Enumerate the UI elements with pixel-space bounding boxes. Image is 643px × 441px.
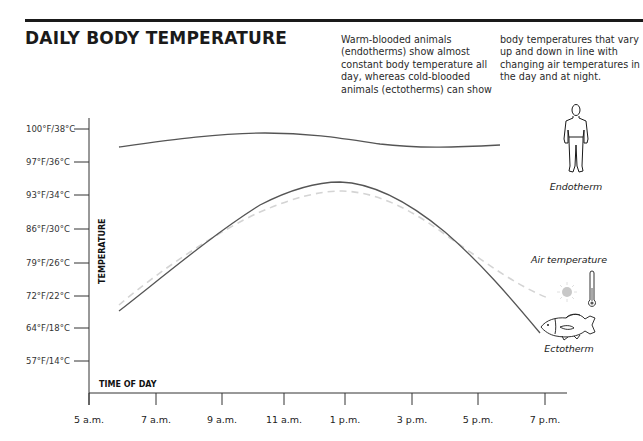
y-tick-label: 79°F/26°C	[26, 258, 70, 268]
y-tick-label: 64°F/18°C	[26, 323, 70, 333]
x-tick-label: 1 p.m.	[330, 414, 360, 425]
x-tick-labels: 5 a.m. 7 a.m. 9 a.m. 11 a.m. 1 p.m. 3 p.…	[74, 414, 560, 425]
x-ticks	[89, 393, 545, 405]
y-axis-title: TEMPERATURE	[98, 218, 107, 284]
x-tick-label: 5 p.m.	[463, 414, 493, 425]
y-tick-label: 97°F/36°C	[26, 157, 70, 167]
endotherm-label: Endotherm	[550, 181, 603, 192]
sun-icon	[557, 282, 577, 302]
y-ticks	[74, 129, 89, 361]
endotherm-line	[119, 133, 500, 147]
thermometer-icon	[589, 271, 596, 306]
x-tick-label: 9 a.m.	[207, 414, 237, 425]
air-temperature-label: Air temperature	[530, 254, 607, 265]
y-tick-label: 57°F/14°C	[26, 356, 70, 366]
x-axis-title: TIME OF DAY	[99, 380, 157, 389]
x-tick-label: 11 a.m.	[266, 414, 302, 425]
y-tick-labels: 100°F/38°C 97°F/36°C 93°F/34°C 86°F/30°C…	[26, 124, 75, 366]
air-temperature-line	[119, 191, 548, 305]
x-tick-label: 3 p.m.	[397, 414, 427, 425]
x-tick-label: 7 p.m.	[530, 414, 560, 425]
chart-area: 100°F/38°C 97°F/36°C 93°F/34°C 86°F/30°C…	[0, 0, 643, 441]
ectotherm-label: Ectotherm	[544, 343, 594, 354]
human-figure-icon	[564, 105, 588, 173]
x-tick-label: 7 a.m.	[141, 414, 171, 425]
fish-icon	[541, 314, 595, 340]
y-tick-label: 86°F/30°C	[26, 224, 70, 234]
x-tick-label: 5 a.m.	[74, 414, 104, 425]
y-tick-label: 93°F/34°C	[26, 190, 70, 200]
y-tick-label: 100°F/38°C	[26, 124, 75, 134]
ectotherm-line	[119, 182, 540, 333]
y-tick-label: 72°F/22°C	[26, 291, 70, 301]
